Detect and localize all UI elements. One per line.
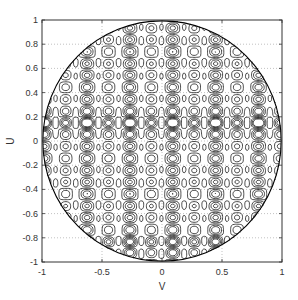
y-tick-label: -1 [30, 257, 38, 267]
y-tick-label: -0.6 [22, 209, 38, 219]
y-tick-label: 0.4 [25, 88, 38, 98]
y-tick-label: 0 [33, 136, 38, 146]
y-tick-label: 0.6 [25, 63, 38, 73]
x-axis-label: V [159, 281, 166, 292]
y-tick-label: 0.2 [25, 112, 38, 122]
x-tick-label: 1 [279, 267, 284, 277]
contour-figure: -1-0.500.51 -1-0.8-0.6-0.4-0.200.20.40.6… [0, 0, 298, 300]
y-tick-label: 0.8 [25, 39, 38, 49]
x-tick-label: -1 [38, 267, 46, 277]
y-tick-labels: -1-0.8-0.6-0.4-0.200.20.40.60.81 [22, 15, 38, 267]
y-tick-label: -0.4 [22, 184, 38, 194]
x-tick-label: 0.5 [216, 267, 229, 277]
x-tick-labels: -1-0.500.51 [38, 267, 285, 277]
y-tick-label: -0.8 [22, 233, 38, 243]
x-tick-label: -0.5 [94, 267, 110, 277]
x-tick-label: 0 [159, 267, 164, 277]
y-axis-label: U [5, 137, 16, 144]
y-tick-label: -0.2 [22, 160, 38, 170]
y-tick-label: 1 [33, 15, 38, 25]
